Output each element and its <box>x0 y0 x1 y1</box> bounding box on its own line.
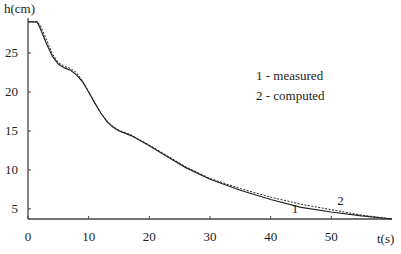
axes <box>28 18 392 219</box>
series-group <box>28 22 392 219</box>
legend-entry-measured: 1 - measured <box>256 68 324 83</box>
series-annotation-2: 2 <box>337 193 344 208</box>
x-tick-label: 20 <box>143 229 156 244</box>
chart: 0102030405051015202512 h(cm) t(s) 1 - me… <box>0 0 401 254</box>
x-tick-label: 30 <box>204 229 217 244</box>
y-tick-label: 25 <box>5 45 18 60</box>
x-tick-label: 10 <box>82 229 95 244</box>
y-tick-label: 20 <box>5 84 18 99</box>
series-line-computed <box>28 22 392 219</box>
y-axis-label: h(cm) <box>4 1 35 16</box>
series-annotation-1: 1 <box>292 201 299 216</box>
y-tick-label: 10 <box>5 162 18 177</box>
y-tick-label: 5 <box>12 201 19 216</box>
x-tick-label: 50 <box>325 229 338 244</box>
x-tick-label: 40 <box>264 229 277 244</box>
y-tick-label: 15 <box>5 123 18 138</box>
x-tick-label: 0 <box>25 229 32 244</box>
legend-entry-computed: 2 - computed <box>256 88 325 103</box>
series-line-measured <box>28 22 392 219</box>
x-axis-label: t(s) <box>377 231 394 246</box>
